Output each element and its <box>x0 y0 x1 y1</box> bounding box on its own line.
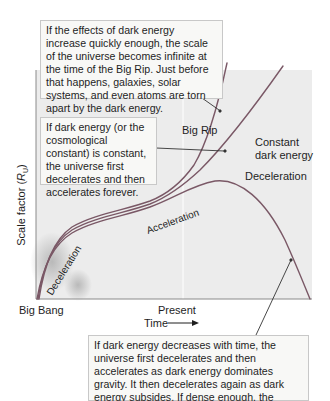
leader-middle <box>156 148 224 151</box>
label-deceleration: Deceleration <box>245 170 307 182</box>
callout-big-rip: If the effects of dark energy increase q… <box>40 20 223 99</box>
label-constant-1: Constant <box>255 136 299 148</box>
callout-constant: If dark energy (or the cosmological cons… <box>40 117 157 185</box>
label-acceleration: Acceleration <box>145 207 200 236</box>
time-arrow-icon <box>168 320 199 326</box>
callout-deceleration: If dark energy decreases with time, the … <box>88 335 309 401</box>
leader-bottom <box>256 260 291 335</box>
label-constant-2: dark energy <box>255 149 313 161</box>
label-big-rip: Big Rip <box>182 124 217 136</box>
x-tick-big-bang: Big Bang <box>19 304 64 316</box>
x-tick-present: Present <box>158 304 196 316</box>
y-axis-label: Scale factor (RU) <box>15 164 29 246</box>
x-axis-label: Time <box>144 317 168 329</box>
